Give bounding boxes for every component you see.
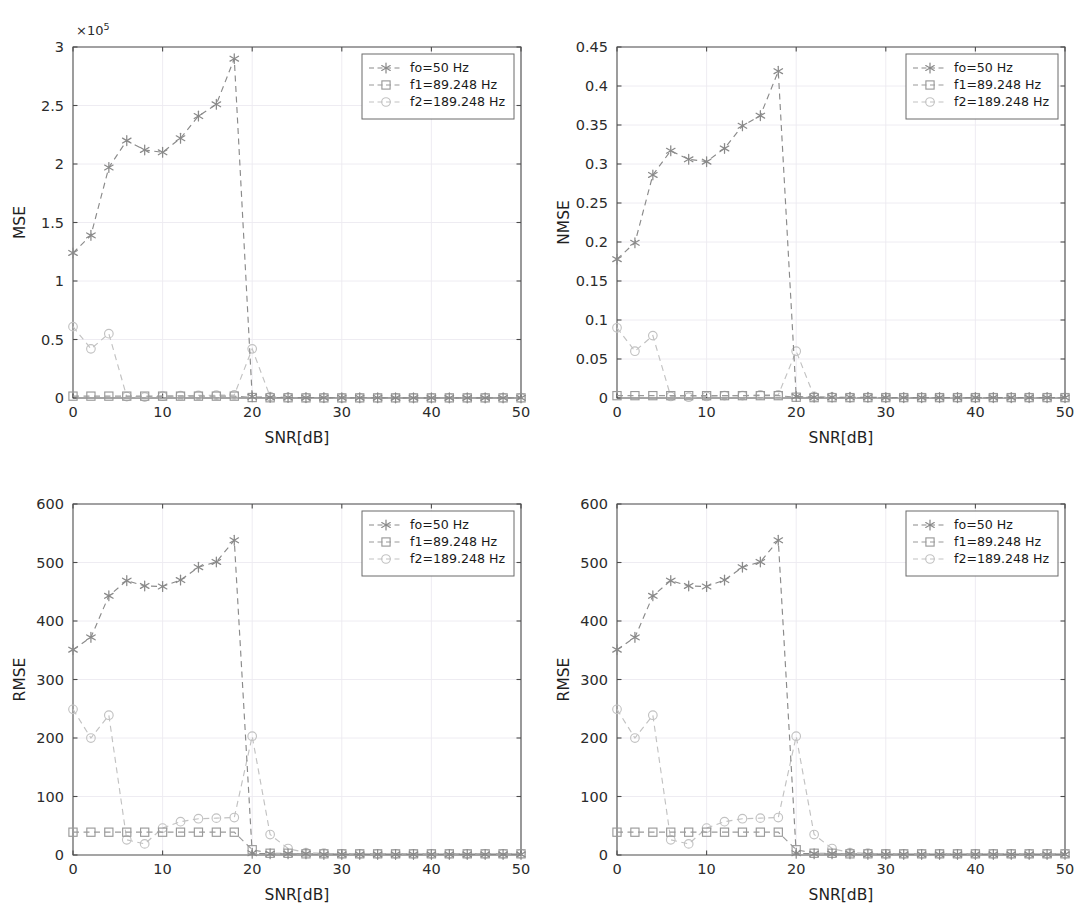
- y-tick-label: 0.35: [576, 117, 608, 133]
- y-tick-label: 3: [55, 39, 64, 55]
- data-point-marker: [212, 99, 220, 109]
- x-axis-label: SNR[dB]: [265, 886, 330, 904]
- x-tick-label: 50: [1056, 404, 1074, 420]
- data-point-marker: [667, 576, 675, 586]
- x-tick-label: 50: [1056, 861, 1074, 877]
- data-point-marker: [631, 238, 639, 248]
- data-point-marker: [738, 121, 746, 131]
- data-point-marker: [123, 136, 131, 146]
- y-tick-label: 1: [55, 273, 64, 289]
- data-series: [69, 705, 526, 858]
- legend-label: f2=189.248 Hz: [954, 551, 1050, 566]
- subplot-rmse-left: 010203040500100200300400500600SNR[dB]RMS…: [0, 457, 544, 913]
- y-tick-label: 1.5: [41, 215, 64, 231]
- data-series: [613, 705, 1070, 858]
- y-axis-label: RMSE: [11, 658, 29, 702]
- data-series: [69, 828, 525, 858]
- x-tick-label: 30: [877, 404, 895, 420]
- legend[interactable]: fo=50 Hzf1=89.248 Hzf2=189.248 Hz: [906, 54, 1058, 119]
- y-tick-label: 2: [55, 156, 64, 172]
- data-series: [613, 324, 1070, 402]
- data-point-marker: [158, 582, 166, 592]
- y-tick-label: 0.25: [576, 195, 608, 211]
- y-tick-label: 0: [55, 847, 64, 863]
- y-tick-label: 2.5: [41, 98, 64, 114]
- data-point-marker: [230, 54, 238, 64]
- x-tick-label: 10: [697, 861, 715, 877]
- y-tick-label: 0: [55, 390, 64, 406]
- data-point-marker: [631, 632, 639, 642]
- y-tick-label: 100: [580, 789, 608, 805]
- data-point-marker: [738, 562, 746, 572]
- data-point-marker: [105, 591, 113, 601]
- legend[interactable]: fo=50 Hzf1=89.248 Hzf2=189.248 Hz: [362, 511, 514, 576]
- data-point-marker: [87, 345, 96, 354]
- x-tick-label: 40: [966, 404, 984, 420]
- y-tick-label: 500: [580, 555, 608, 571]
- y-tick-label: 300: [36, 672, 64, 688]
- y-axis-label: MSE: [11, 206, 29, 239]
- x-tick-label: 30: [877, 861, 895, 877]
- y-tick-label: 0.4: [585, 78, 608, 94]
- legend-label: f1=89.248 Hz: [410, 534, 498, 549]
- data-point-marker: [176, 575, 184, 585]
- y-tick-label: 0.15: [576, 273, 608, 289]
- x-tick-label: 20: [243, 861, 261, 877]
- x-tick-label: 0: [612, 861, 621, 877]
- legend-label: fo=50 Hz: [410, 60, 469, 75]
- series-line: [73, 327, 521, 398]
- y-tick-label: 500: [36, 555, 64, 571]
- y-tick-label: 0.5: [41, 332, 64, 348]
- x-tick-label: 40: [422, 861, 440, 877]
- x-tick-label: 50: [512, 861, 530, 877]
- y-axis-label: RMSE: [555, 658, 573, 702]
- series-line: [73, 540, 521, 854]
- legend-label: fo=50 Hz: [954, 60, 1013, 75]
- data-point-marker: [194, 562, 202, 572]
- y-tick-label: 0.2: [585, 234, 608, 250]
- data-series: [613, 828, 1069, 858]
- x-tick-label: 30: [333, 404, 351, 420]
- data-point-marker: [684, 581, 692, 591]
- legend-label: f2=189.248 Hz: [410, 94, 506, 109]
- legend-label: f1=89.248 Hz: [410, 77, 498, 92]
- data-point-marker: [87, 230, 95, 240]
- x-tick-label: 10: [153, 404, 171, 420]
- y-tick-label: 0.1: [585, 312, 608, 328]
- legend[interactable]: fo=50 Hzf1=89.248 Hzf2=189.248 Hz: [906, 511, 1058, 576]
- subplot-mse: 0102030405000.511.522.53×105SNR[dB]MSEfo…: [0, 0, 544, 456]
- legend[interactable]: fo=50 Hzf1=89.248 Hzf2=189.248 Hz: [362, 54, 514, 119]
- data-point-marker: [87, 632, 95, 642]
- y-tick-label: 200: [580, 730, 608, 746]
- figure-canvas: 0102030405000.511.522.53×105SNR[dB]MSEfo…: [0, 0, 1088, 913]
- series-line: [617, 540, 1065, 854]
- data-point-marker: [684, 840, 693, 849]
- data-point-marker: [140, 581, 148, 591]
- data-point-marker: [702, 582, 710, 592]
- x-axis-label: SNR[dB]: [809, 429, 874, 447]
- y-axis-offset-text: ×105: [76, 21, 109, 38]
- x-tick-label: 0: [68, 404, 77, 420]
- x-tick-label: 20: [787, 404, 805, 420]
- data-point-marker: [123, 576, 131, 586]
- data-point-marker: [140, 840, 149, 849]
- series-line: [617, 328, 1065, 398]
- x-tick-label: 30: [333, 861, 351, 877]
- x-axis-label: SNR[dB]: [265, 429, 330, 447]
- x-tick-label: 0: [68, 861, 77, 877]
- legend-label: f1=89.248 Hz: [954, 534, 1042, 549]
- y-tick-label: 0.05: [576, 351, 608, 367]
- y-tick-label: 0.3: [585, 156, 608, 172]
- y-tick-label: 600: [36, 496, 64, 512]
- legend-label: f2=189.248 Hz: [410, 551, 506, 566]
- x-tick-label: 40: [966, 861, 984, 877]
- y-tick-label: 0: [599, 847, 608, 863]
- y-tick-label: 0.45: [576, 39, 608, 55]
- x-tick-label: 20: [243, 404, 261, 420]
- legend-label: fo=50 Hz: [410, 517, 469, 532]
- legend-label: fo=50 Hz: [954, 517, 1013, 532]
- y-tick-label: 200: [36, 730, 64, 746]
- y-tick-label: 400: [36, 613, 64, 629]
- y-tick-label: 300: [580, 672, 608, 688]
- legend-label: f2=189.248 Hz: [954, 94, 1050, 109]
